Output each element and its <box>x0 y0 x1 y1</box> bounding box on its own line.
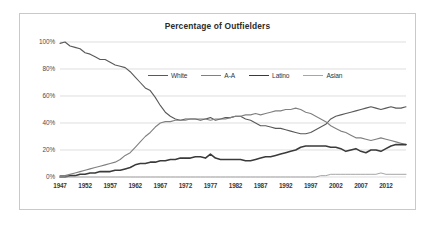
chart-legend: WhiteA-ALatinoAsian <box>148 72 342 79</box>
legend-swatch-icon <box>249 75 269 76</box>
legend-item-a-a[interactable]: A-A <box>201 72 235 79</box>
y-axis-tick-label: 80% <box>29 65 55 72</box>
plot-area: 0%20%40%60%80%100%1947195219571962196719… <box>20 14 417 211</box>
legend-swatch-icon <box>201 75 221 76</box>
legend-label: Asian <box>326 72 342 79</box>
y-axis-tick-label: 40% <box>29 119 55 126</box>
y-axis-tick-label: 20% <box>29 146 55 153</box>
legend-swatch-icon <box>303 75 323 76</box>
legend-item-latino[interactable]: Latino <box>249 72 289 79</box>
legend-swatch-icon <box>148 75 168 76</box>
legend-label: White <box>171 72 187 79</box>
chart-card: Percentage of Outfielders 0%20%40%60%80%… <box>19 13 416 210</box>
x-axis-tick-label: 2012 <box>371 182 401 189</box>
legend-label: Latino <box>272 72 289 79</box>
legend-item-white[interactable]: White <box>148 72 187 79</box>
y-axis-tick-label: 100% <box>29 38 55 45</box>
y-axis-tick-label: 60% <box>29 92 55 99</box>
legend-item-asian[interactable]: Asian <box>303 72 342 79</box>
legend-label: A-A <box>224 72 235 79</box>
y-axis-tick-label: 0% <box>29 173 55 180</box>
